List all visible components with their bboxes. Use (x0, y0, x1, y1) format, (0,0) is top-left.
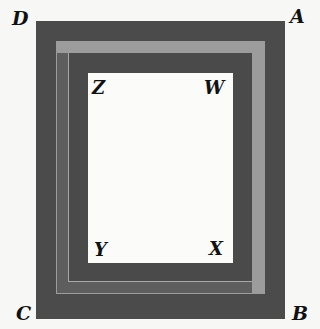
diagram-canvas: D A B C Z W X Y (0, 0, 320, 329)
vertex-label-z: Z (92, 79, 105, 97)
vertex-label-c: C (16, 304, 31, 323)
vertex-label-b: B (292, 304, 308, 323)
left-highlight-line (68, 53, 69, 282)
bottom-highlight-line (68, 281, 252, 282)
inner-rectangle-zwxy (88, 73, 233, 263)
vertex-label-x: X (209, 240, 223, 258)
bottom-shadow-band (57, 282, 252, 293)
vertex-label-d: D (12, 9, 28, 28)
left-shadow-band (57, 53, 68, 293)
vertex-label-a: A (290, 7, 305, 26)
vertex-label-y: Y (94, 241, 107, 259)
vertex-label-w: W (204, 79, 224, 97)
